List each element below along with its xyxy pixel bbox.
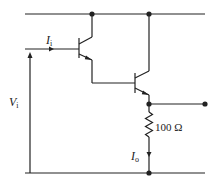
voltage-arrow-icon <box>28 52 33 58</box>
output-current-arrow-icon <box>147 152 152 157</box>
resistor-r1 <box>146 104 153 173</box>
output-current-label: Io <box>130 149 139 164</box>
emitter-arrow-icon <box>142 91 149 96</box>
input-current-label: Ii <box>45 33 53 48</box>
output-terminal <box>202 101 207 106</box>
resistor-value-label: 100 Ω <box>155 121 182 133</box>
input-voltage-label: Vi <box>9 95 19 110</box>
input-voltage-arrow <box>28 52 33 173</box>
transistor-q1 <box>79 14 135 83</box>
circuit-diagram: 100 Ω Ii Vi Io <box>0 0 220 184</box>
emitter-arrow-icon <box>85 56 92 61</box>
transistor-q2 <box>135 14 149 104</box>
